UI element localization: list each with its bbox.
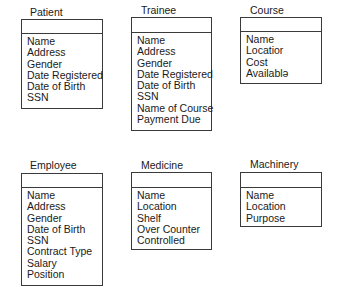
attribute: SSN	[27, 92, 102, 103]
entity-header-compartment	[22, 174, 102, 188]
attribute: Payment Due	[137, 114, 211, 125]
attribute: Address	[27, 201, 102, 212]
entity-title: Medicine	[141, 159, 183, 171]
attribute: Availablə	[246, 68, 321, 79]
attribute-list: Name Location Shelf Over Counter Control…	[132, 188, 211, 246]
attribute-list: Name Location Purpose	[241, 188, 321, 224]
entity-box: Name Location Shelf Over Counter Control…	[131, 172, 212, 250]
entity-box: Name Address Gender Date of Birth SSN Co…	[21, 173, 103, 286]
entity-box: Name Location Purpose	[240, 172, 322, 227]
attribute-list: Name Locatior Cost Availablə	[241, 32, 321, 79]
entity-title: Patient	[30, 6, 63, 18]
entity-header-compartment	[241, 18, 321, 32]
entity-title: Trainee	[141, 4, 176, 16]
attribute-list: Name Address Gender Date Registered Date…	[22, 34, 102, 104]
entity-title: Employee	[30, 159, 77, 171]
attribute-list: Name Address Gender Date Registered Date…	[132, 33, 211, 125]
entity-header-compartment	[241, 173, 321, 188]
entity-header-compartment	[22, 20, 102, 34]
entity-header-compartment	[132, 18, 211, 33]
entity-title: Course	[250, 4, 284, 16]
attribute: Controlled	[137, 235, 211, 246]
entity-box: Name Address Gender Date Registered Date…	[131, 17, 212, 131]
attribute: Purpose	[246, 213, 321, 224]
attribute: Position	[27, 269, 102, 280]
attribute: Locatior	[246, 45, 321, 56]
attribute: Address	[27, 47, 102, 58]
entity-header-compartment	[132, 173, 211, 188]
attribute: Location	[137, 201, 211, 212]
attribute-list: Name Address Gender Date of Birth SSN Co…	[22, 188, 102, 280]
entity-title: Machinery	[250, 158, 298, 170]
entity-box: Name Address Gender Date Registered Date…	[21, 19, 103, 109]
attribute: Address	[137, 46, 211, 57]
attribute: Location	[246, 201, 321, 212]
entity-box: Name Locatior Cost Availablə	[240, 17, 322, 84]
